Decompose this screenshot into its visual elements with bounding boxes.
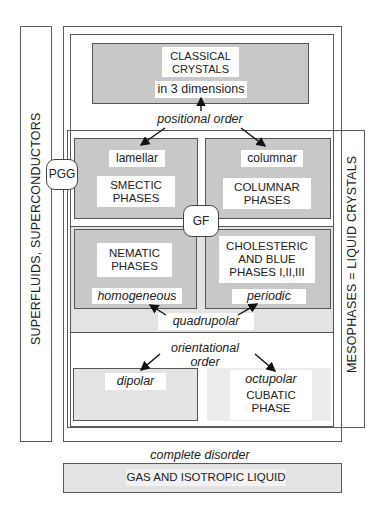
arrow-to-homogeneous-icon (150, 305, 166, 315)
arrow-to-periodic-icon (238, 304, 257, 315)
arrows-layer (0, 0, 383, 513)
arrow-to-columnar-icon (241, 128, 265, 146)
arrow-to-octupolar-icon (255, 354, 275, 371)
arrow-to-lamellar-icon (141, 128, 165, 145)
arrow-to-dipolar-icon (141, 354, 160, 370)
